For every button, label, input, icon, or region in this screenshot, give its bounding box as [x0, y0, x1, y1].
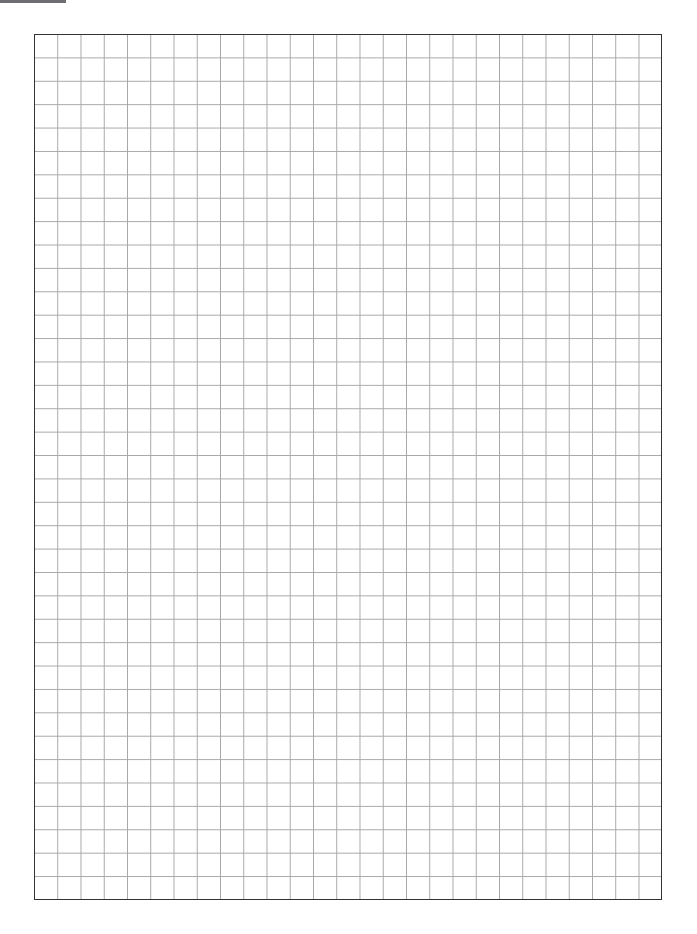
header-tab	[0, 0, 66, 3]
graph-paper-grid	[34, 34, 662, 900]
